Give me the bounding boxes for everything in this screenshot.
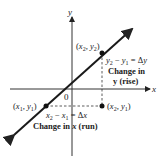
point-x2-y1	[100, 104, 105, 109]
rise-equation: y2 − y1 = Δy	[105, 55, 147, 66]
rise-label-line1: Change in	[108, 66, 145, 76]
y-axis-label: y	[67, 7, 72, 17]
run-equation: x2 − x1 = Δx	[45, 110, 87, 121]
slope-diagram: y x 0 (x2, y2) (x1, y1) (x2, y1) y2 − y1…	[0, 0, 162, 165]
label-x1-y1: (x1, y1)	[13, 101, 37, 112]
point-x1-y1	[44, 104, 49, 109]
origin-label: 0	[64, 92, 69, 102]
x-axis-label: x	[151, 84, 156, 94]
run-label: Change in x (run)	[33, 121, 98, 131]
label-x2-y1: (x2, y1)	[107, 101, 131, 112]
rise-label-line2: y (rise)	[113, 76, 138, 86]
point-x2-y2	[100, 51, 105, 56]
label-x2-y2: (x2, y2)	[76, 41, 100, 52]
